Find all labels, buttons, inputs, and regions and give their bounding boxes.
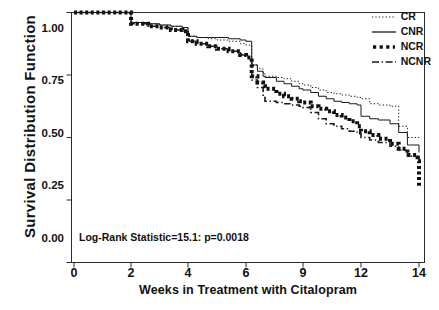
legend-entry-ncnr: NCNR: [371, 55, 431, 68]
legend-label-cr: CR: [401, 11, 416, 22]
survival-curves: [74, 13, 419, 188]
curve-ncnr: [74, 13, 419, 166]
legend: CR CNR NCR NCNR: [371, 10, 431, 68]
legend-entry-cnr: CNR: [371, 25, 431, 38]
curve-cnr: [74, 13, 419, 153]
survival-chart-figure: Survival Distribution Function Weeks in …: [0, 0, 439, 310]
legend-label-cnr: CNR: [401, 26, 424, 37]
legend-entry-ncr: NCR: [371, 40, 431, 53]
legend-key-ncr-icon: [371, 41, 397, 52]
legend-label-ncr: NCR: [401, 41, 424, 52]
legend-key-cr-icon: [371, 11, 397, 22]
legend-label-ncnr: NCNR: [401, 56, 431, 67]
legend-key-ncnr-icon: [371, 56, 397, 67]
curve-cr: [74, 13, 419, 141]
curve-ncr: [74, 13, 419, 188]
x-axis-ticks: [74, 263, 419, 268]
legend-key-cnr-icon: [371, 26, 397, 37]
y-axis-ticks: [67, 13, 72, 263]
legend-entry-cr: CR: [371, 10, 431, 23]
